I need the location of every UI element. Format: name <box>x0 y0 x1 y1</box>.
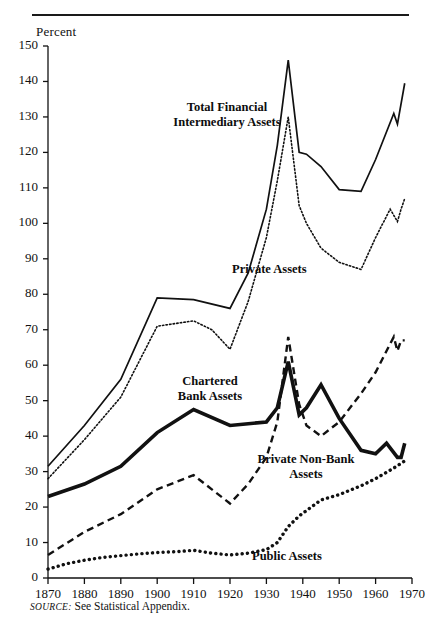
series-label-chartered-line2: Bank Assets <box>152 389 268 404</box>
series-label-nonbank-line2: Assets <box>241 467 371 482</box>
series-label-nonbank: Private Non-Bank Assets <box>241 452 371 481</box>
y-tick-150: 150 <box>8 37 38 53</box>
y-tick-0: 0 <box>8 569 38 585</box>
y-tick-130: 130 <box>8 108 38 124</box>
y-tick-20: 20 <box>8 498 38 514</box>
y-tick-30: 30 <box>8 463 38 479</box>
series-path-3 <box>48 337 405 555</box>
y-tick-70: 70 <box>8 321 38 337</box>
x-tick-1970: 1970 <box>389 586 434 602</box>
y-tick-100: 100 <box>8 214 38 230</box>
series-label-public: Public Assets <box>252 549 362 564</box>
y-tick-110: 110 <box>8 179 38 195</box>
series-label-private: Private Assets <box>232 262 342 277</box>
y-tick-10: 10 <box>8 534 38 550</box>
y-tick-60: 60 <box>8 356 38 372</box>
y-tick-50: 50 <box>8 392 38 408</box>
y-tick-40: 40 <box>8 427 38 443</box>
series-label-chartered: Chartered Bank Assets <box>152 374 268 403</box>
source-prefix: SOURCE: <box>30 602 72 612</box>
series-label-total-line2: Intermediary Assets <box>152 115 302 130</box>
y-tick-120: 120 <box>8 143 38 159</box>
figure-canvas: Percent 15014013012011010090807060504030… <box>0 0 434 625</box>
series-label-nonbank-line1: Private Non-Bank <box>241 452 371 467</box>
source-note: SOURCE: See Statistical Appendix. <box>30 600 190 612</box>
series-label-total-line1: Total Financial <box>152 100 302 115</box>
y-tick-140: 140 <box>8 72 38 88</box>
series-label-total: Total Financial Intermediary Assets <box>152 100 302 129</box>
series-label-private-text: Private Assets <box>232 262 342 277</box>
y-tick-90: 90 <box>8 250 38 266</box>
source-text: See Statistical Appendix. <box>75 600 190 612</box>
chart-plot-area <box>0 0 434 625</box>
y-tick-80: 80 <box>8 285 38 301</box>
series-label-public-text: Public Assets <box>252 549 362 564</box>
series-label-chartered-line1: Chartered <box>152 374 268 389</box>
